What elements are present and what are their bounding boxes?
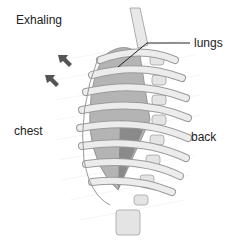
arrow-inward-icon [58,55,72,67]
label-chest: chest [14,125,43,137]
trachea [130,8,148,48]
label-back: back [191,131,216,143]
label-lungs: lungs [194,37,223,49]
diagram-title: Exhaling [16,14,62,26]
arrow-inward-icon [45,75,59,87]
